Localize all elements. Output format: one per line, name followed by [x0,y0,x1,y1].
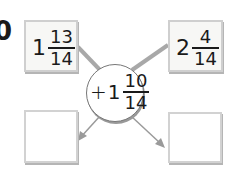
operator-expression: + 1 10 14 [90,72,149,112]
top-left-box: 1 13 14 [24,20,78,72]
top-right-box: 2 4 14 [168,20,223,72]
arrow-right-line [131,116,160,143]
mixed-number-top-left: 1 13 14 [32,28,75,68]
whole-part: 1 [108,80,121,104]
plus-operator: + [90,80,107,104]
denominator: 14 [192,50,219,68]
denominator: 14 [123,94,150,112]
fraction: 13 14 [48,28,75,68]
connector-right [132,45,168,70]
whole-part: 2 [176,35,190,60]
denominator: 14 [48,50,75,68]
fraction: 4 14 [192,28,219,68]
operator-circle: + 1 10 14 [86,64,144,122]
bottom-left-answer-box[interactable] [24,110,78,163]
whole-part: 1 [32,35,46,60]
numerator: 4 [198,28,213,46]
numerator: 10 [123,72,150,90]
fraction: 10 14 [123,72,150,112]
mixed-number-top-right: 2 4 14 [176,28,219,68]
numerator: 13 [48,28,75,46]
bottom-right-answer-box[interactable] [168,112,222,163]
connector-left [78,47,100,70]
